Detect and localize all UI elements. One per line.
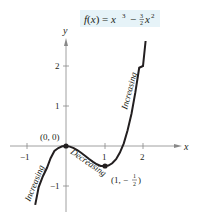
svg-text:−1: −1: [50, 181, 60, 191]
function-graph: f(x) = x 3 − 3 2 x 2 x y −1 1 2 2 1 −1 (…: [0, 0, 198, 219]
origin-point: [63, 143, 68, 148]
y-axis-label: y: [62, 25, 68, 36]
svg-text:2: 2: [55, 61, 60, 71]
svg-text:2: 2: [140, 152, 145, 162]
svg-text:): ): [138, 175, 141, 185]
x-axis-label: x: [183, 141, 189, 152]
svg-text:1: 1: [55, 101, 60, 111]
svg-text:1: 1: [102, 152, 107, 162]
svg-text:−1: −1: [20, 152, 30, 162]
increasing-left-label: Increasing: [22, 163, 46, 204]
svg-text:3: 3: [140, 13, 143, 19]
svg-text:2: 2: [140, 20, 143, 26]
svg-text:f(x) = x: f(x) = x: [84, 13, 116, 26]
decreasing-label: Decreasing: [68, 146, 109, 179]
svg-text:x: x: [144, 13, 150, 25]
formula-title: f(x) = x 3 − 3 2 x 2: [84, 12, 155, 26]
svg-text:3: 3: [122, 12, 126, 20]
svg-text:1: 1: [133, 173, 136, 179]
svg-text:(1, −: (1, −: [111, 175, 128, 185]
origin-label: (0, 0): [40, 132, 60, 142]
svg-text:−: −: [130, 13, 136, 25]
svg-text:2: 2: [133, 181, 136, 187]
x-axis-arrow-icon: [174, 144, 182, 148]
y-axis-arrow-icon: [64, 38, 68, 46]
svg-text:2: 2: [151, 12, 155, 20]
minimum-label: (1, − 1 2 ): [111, 173, 141, 187]
